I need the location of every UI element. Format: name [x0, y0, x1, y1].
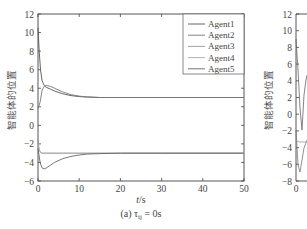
panel-b-series-fragment-3	[296, 140, 307, 142]
panel-a: −6−4−2024681012 01020304050 智能体的位置 t/s (…	[6, 10, 249, 222]
y-tick-label: 8	[29, 47, 34, 57]
panel-b-series-fragment-2	[296, 130, 307, 172]
x-tick-label: 20	[116, 184, 126, 194]
x-tick-label: 10	[74, 184, 84, 194]
panel-b-series-fragment	[296, 39, 307, 130]
y-tick-label: 4	[29, 84, 34, 94]
y-tick-label: 0	[29, 121, 34, 131]
series-line-agent3	[38, 139, 244, 153]
panel-b-partial: −8−6−4−2024681012 智能体的位置 0	[263, 10, 307, 195]
x-tick-label: 40	[198, 184, 208, 194]
panel-b-y-tick-label: 2	[287, 93, 292, 103]
x-tick-label: 0	[36, 184, 41, 194]
x-tick-label: 30	[157, 184, 167, 194]
panel-b-y-tick-label: 4	[287, 76, 292, 86]
figure-canvas: −6−4−2024681012 01020304050 智能体的位置 t/s (…	[0, 0, 307, 229]
legend-label: Agent4	[208, 53, 235, 63]
series-line-agent5	[38, 149, 244, 169]
y-tick-label: 10	[25, 28, 35, 38]
panel-b-y-axis-title: 智能体的位置	[263, 70, 274, 130]
y-tick-label: −4	[24, 158, 34, 168]
legend-label: Agent2	[208, 30, 235, 40]
legend-label: Agent5	[208, 64, 235, 74]
y-tick-label: −6	[24, 177, 34, 187]
y-tick-label: −2	[24, 139, 34, 149]
legend-label: Agent3	[208, 41, 235, 51]
x-axis-title-unit: /s	[139, 194, 146, 205]
legend-label: Agent1	[208, 19, 235, 29]
panel-b-y-tick-label: −8	[282, 177, 292, 187]
panel-b-y-tick-label: 0	[287, 110, 292, 120]
panel-b-y-tick-label: 8	[287, 43, 292, 53]
panel-b-y-tick-label: −2	[282, 126, 292, 136]
y-tick-label: 2	[29, 102, 34, 112]
y-axis-title: 智能体的位置	[6, 70, 17, 130]
y-tick-label: 12	[25, 10, 35, 20]
panel-b-y-tick-label: −4	[282, 143, 292, 153]
x-axis-title: t/s	[136, 194, 146, 205]
legend: Agent1Agent2Agent3Agent4Agent5	[183, 14, 244, 74]
panel-caption: (a) τij = 0s	[120, 208, 161, 221]
series-line-agent4	[38, 144, 244, 153]
panel-b-y-tick-label: 10	[283, 26, 293, 36]
panel-b-y-tick-label: 6	[287, 60, 292, 70]
x-tick-label: 50	[239, 184, 249, 194]
y-tick-label: 6	[29, 65, 34, 75]
panel-b-x-tick-0: 0	[294, 184, 299, 194]
panel-b-y-tick-label: −6	[282, 160, 292, 170]
panel-b-y-tick-label: 12	[283, 10, 293, 20]
series-line-agent2	[38, 85, 244, 108]
